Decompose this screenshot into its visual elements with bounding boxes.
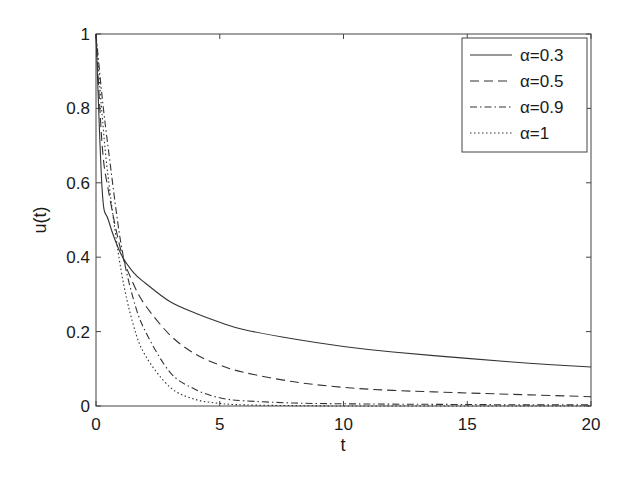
y-tick-label: 0.2 bbox=[66, 323, 90, 342]
x-tick-label: 15 bbox=[458, 415, 477, 434]
legend-label: α=0.3 bbox=[520, 46, 563, 65]
y-tick-label: 0.4 bbox=[66, 248, 90, 267]
x-tick-label: 0 bbox=[91, 415, 100, 434]
x-tick-label: 20 bbox=[582, 415, 601, 434]
y-tick-label: 0 bbox=[81, 397, 90, 416]
legend-label: α=0.9 bbox=[520, 98, 563, 117]
line-chart: 0510152000.20.40.60.81 t u(t) α=0.3α=0.5… bbox=[0, 0, 631, 488]
legend: α=0.3α=0.5α=0.9α=1 bbox=[462, 38, 587, 152]
legend-label: α=0.5 bbox=[520, 72, 563, 91]
y-tick-label: 0.8 bbox=[66, 99, 90, 118]
y-tick-label: 1 bbox=[81, 25, 90, 44]
legend-label: α=1 bbox=[520, 124, 549, 143]
y-tick-label: 0.6 bbox=[66, 174, 90, 193]
x-axis-label: t bbox=[340, 435, 345, 455]
x-tick-label: 5 bbox=[215, 415, 224, 434]
y-axis-label: u(t) bbox=[30, 207, 50, 234]
x-tick-label: 10 bbox=[334, 415, 353, 434]
